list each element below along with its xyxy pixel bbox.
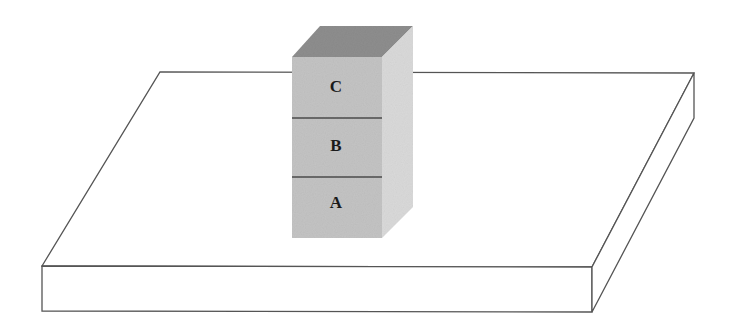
block-b-label: B bbox=[330, 136, 341, 155]
block-a-label: A bbox=[330, 193, 343, 212]
plate-front-face bbox=[42, 266, 592, 312]
block-stack bbox=[292, 26, 413, 238]
diagram-canvas: C B A bbox=[0, 0, 734, 332]
stack-side-face bbox=[382, 26, 413, 238]
block-c-label: C bbox=[330, 77, 342, 96]
